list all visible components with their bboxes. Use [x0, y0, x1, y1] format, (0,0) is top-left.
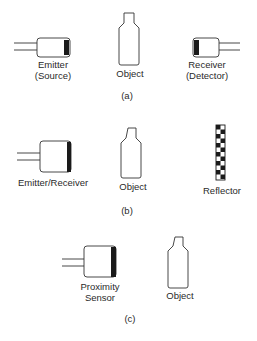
object-label-b: Object: [119, 181, 146, 192]
caption-c: (c): [124, 313, 135, 324]
object-bottle-icon-a: [119, 13, 139, 65]
emitter-receiver-icon: [17, 141, 71, 172]
object-label-a: Object: [116, 68, 143, 79]
emitter-receiver-label: Emitter/Receiver: [18, 177, 88, 188]
receiver-label-line2: (Detector): [186, 70, 228, 81]
object-bottle-icon-b: [121, 128, 141, 178]
emitter-label-line2: (Source): [35, 70, 71, 81]
emitter-label: Emitter (Source): [35, 59, 71, 81]
object-bottle-icon-c: [168, 237, 188, 288]
reflector-label: Reflector: [203, 185, 241, 196]
diagram-canvas: [0, 0, 257, 341]
emitter-label-line1: Emitter: [35, 59, 71, 70]
emitter-icon: [14, 38, 70, 57]
proximity-sensor-label: Proximity Sensor: [80, 281, 119, 303]
caption-b: (b): [121, 205, 133, 216]
reflector-pattern: [216, 125, 225, 179]
proximity-sensor-label-line1: Proximity: [80, 281, 119, 292]
proximity-sensor-icon: [62, 246, 116, 277]
object-label-c: Object: [166, 290, 193, 301]
proximity-sensor-label-line2: Sensor: [80, 292, 119, 303]
receiver-label: Receiver (Detector): [186, 59, 228, 81]
receiver-icon: [193, 38, 240, 57]
receiver-label-line1: Receiver: [186, 59, 228, 70]
caption-a: (a): [121, 90, 133, 101]
